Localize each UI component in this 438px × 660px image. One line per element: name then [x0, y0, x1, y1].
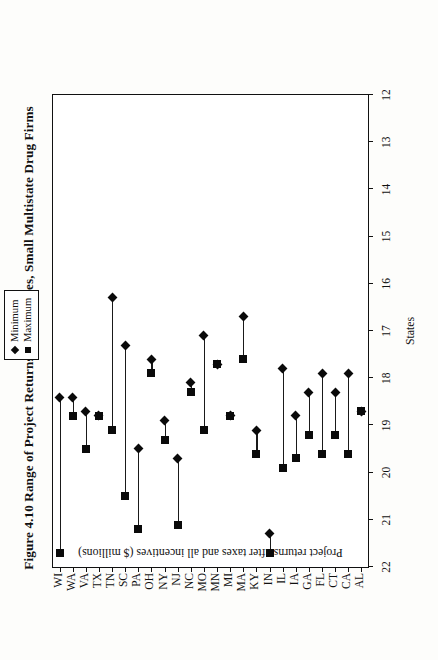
value-axis-tick	[368, 519, 373, 520]
value-axis-tick	[368, 566, 373, 567]
category-axis-tick	[256, 567, 257, 572]
value-axis-tick-label: 18	[380, 363, 392, 393]
category-axis-label: TX	[91, 573, 103, 601]
legend-label-minimum: Minimum	[8, 300, 21, 342]
maximum-marker	[69, 412, 77, 420]
maximum-marker	[318, 450, 326, 458]
category-axis-tick	[73, 567, 74, 572]
category-axis-tick	[99, 567, 100, 572]
minimum-marker	[251, 425, 261, 435]
maximum-marker	[187, 388, 195, 396]
legend-label-maximum: Maximum	[21, 298, 34, 342]
category-axis-tick	[309, 567, 310, 572]
value-axis-tick	[368, 472, 373, 473]
plot-frame: 2221201918171615141312ALCACTFLGAIAILINKY…	[52, 94, 369, 568]
value-axis-tick	[368, 330, 373, 331]
category-axis-tick	[243, 567, 244, 572]
category-axis-label: CA	[340, 573, 352, 601]
category-axis-label: GA	[301, 573, 313, 601]
minimum-marker	[133, 444, 143, 454]
category-axis-label: CT	[327, 573, 339, 601]
category-axis-tick	[270, 567, 271, 572]
category-axis-label: IA	[288, 573, 300, 601]
maximum-marker	[134, 525, 142, 533]
minimum-marker	[238, 312, 248, 322]
range-connector-line	[125, 345, 126, 496]
maximum-marker	[292, 454, 300, 462]
maximum-marker	[174, 521, 182, 529]
legend-entry-minimum: Minimum	[8, 298, 21, 353]
value-axis-tick	[368, 377, 373, 378]
maximum-marker	[121, 492, 129, 500]
minimum-marker	[343, 369, 353, 379]
range-connector-line	[283, 369, 284, 468]
range-connector-line	[296, 416, 297, 458]
maximum-marker	[226, 412, 234, 420]
value-axis-tick	[368, 236, 373, 237]
value-axis-tick-label: 16	[380, 269, 392, 299]
minimum-marker	[199, 331, 209, 341]
category-axis-label: NY	[157, 573, 169, 601]
category-axis-tick	[125, 567, 126, 572]
chart-area: Minimum Maximum 2221201918171615141312AL…	[0, 0, 438, 660]
value-axis-tick	[368, 141, 373, 142]
maximum-marker	[252, 450, 260, 458]
maximum-marker	[147, 369, 155, 377]
category-axis-label: MO	[196, 573, 208, 601]
category-axis-tick	[191, 567, 192, 572]
minimum-marker	[68, 392, 78, 402]
minimum-marker	[107, 293, 117, 303]
minimum-marker	[304, 387, 314, 397]
value-axis-tick-label: 15	[380, 222, 392, 252]
maximum-marker	[357, 407, 365, 415]
x-axis-title: States	[403, 94, 418, 568]
minimum-marker	[317, 369, 327, 379]
category-axis-label: WI	[52, 573, 64, 601]
value-axis-tick	[368, 283, 373, 284]
category-axis-label: IN	[262, 573, 274, 601]
category-axis-tick	[230, 567, 231, 572]
category-axis-label: SC	[117, 573, 129, 601]
maximum-marker	[239, 355, 247, 363]
value-axis-tick-label: 17	[380, 316, 392, 346]
category-axis-label: FL	[314, 573, 326, 601]
range-connector-line	[322, 374, 323, 454]
maximum-marker	[82, 445, 90, 453]
maximum-marker	[305, 431, 313, 439]
range-connector-line	[178, 458, 179, 524]
minimum-marker	[55, 392, 65, 402]
minimum-marker	[120, 340, 130, 350]
range-connector-line	[112, 298, 113, 430]
category-axis-tick	[138, 567, 139, 572]
category-axis-tick	[86, 567, 87, 572]
minimum-marker	[265, 529, 275, 539]
minimum-marker	[186, 378, 196, 388]
category-axis-label: NJ	[170, 573, 182, 601]
value-axis-tick	[368, 424, 373, 425]
minimum-marker	[160, 416, 170, 426]
minimum-marker	[278, 364, 288, 374]
range-connector-line	[335, 392, 336, 434]
category-axis-label: KY	[248, 573, 260, 601]
range-connector-line	[243, 317, 244, 359]
value-axis-tick	[368, 94, 373, 95]
value-axis-tick-label: 14	[380, 174, 392, 204]
y-axis-title: Project returns after taxes and all ince…	[0, 545, 431, 560]
category-axis-label: VA	[78, 573, 90, 601]
maximum-marker	[108, 426, 116, 434]
rotated-chart-wrapper: Minimum Maximum 2221201918171615141312AL…	[0, 0, 438, 660]
maximum-marker	[279, 464, 287, 472]
maximum-marker	[213, 360, 221, 368]
category-axis-tick	[60, 567, 61, 572]
value-axis-tick-label: 21	[380, 505, 392, 535]
category-axis-tick	[361, 567, 362, 572]
range-connector-line	[309, 392, 310, 434]
category-axis-tick	[348, 567, 349, 572]
category-axis-label: OH	[143, 573, 155, 601]
category-axis-label: AL	[353, 573, 365, 601]
category-axis-label: WA	[65, 573, 77, 601]
value-axis-tick-label: 12	[380, 80, 392, 110]
value-axis-tick-label: 13	[380, 127, 392, 157]
maximum-marker	[161, 436, 169, 444]
category-axis-label: MA	[235, 573, 247, 601]
